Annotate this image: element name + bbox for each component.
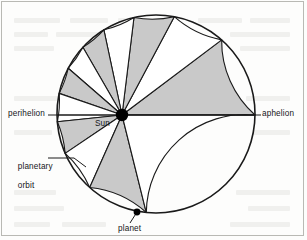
label-planet: planet	[118, 224, 141, 234]
kepler-second-law-figure: perihelion aphelion Sun planetary orbit …	[0, 0, 307, 240]
planet-marker	[134, 209, 141, 216]
sun-marker	[116, 109, 128, 121]
label-planetary-orbit: planetary orbit	[8, 152, 53, 200]
label-perihelion: perihelion	[8, 109, 45, 119]
label-planetary-orbit-line1: planetary	[18, 162, 53, 171]
label-planetary-orbit-line2: orbit	[18, 181, 35, 190]
label-sun: Sun	[95, 119, 110, 129]
label-aphelion: aphelion	[262, 109, 294, 119]
orbit-diagram	[0, 0, 307, 240]
